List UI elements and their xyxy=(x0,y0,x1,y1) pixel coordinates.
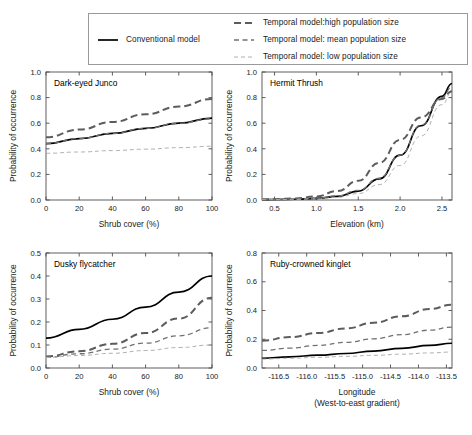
y-tick-label: 0.0 xyxy=(246,196,257,205)
x-axis-title: Shrub cover (%) xyxy=(99,219,160,229)
x-tick-label: -115.5 xyxy=(324,372,345,381)
y-tick-label: 0.2 xyxy=(246,170,257,179)
y-axis-title: Probability of occurrence xyxy=(8,90,18,183)
y-tick-label: 0.6 xyxy=(246,119,257,128)
plot-frame xyxy=(46,253,212,368)
x-tick-label: 60 xyxy=(141,372,149,381)
x-tick-label: 100 xyxy=(206,204,219,213)
x-tick-label: 20 xyxy=(75,204,83,213)
x-axis-title: Longitude xyxy=(339,387,376,397)
panel-title: Hermit Thrush xyxy=(270,78,323,88)
x-tick-label: 1.0 xyxy=(311,204,322,213)
y-tick-label: 0.2 xyxy=(30,318,41,327)
x-tick-label: 2.0 xyxy=(395,204,406,213)
y-axis-title: Probability of occurrence xyxy=(224,90,234,183)
panel-1: 0204060801000.00.20.40.60.81.0Dark-eyed … xyxy=(8,68,218,229)
x-tick-label: -116.0 xyxy=(296,372,317,381)
x-tick-label: 60 xyxy=(141,204,149,213)
y-tick-label: 1.0 xyxy=(30,68,41,77)
y-tick-label: 0.0 xyxy=(246,364,257,373)
y-tick-label: 0.8 xyxy=(246,93,257,102)
x-tick-label: -114.5 xyxy=(380,372,401,381)
panel-4: -116.5-116.0-115.5-115.0-114.5-114.0-113… xyxy=(224,249,457,408)
plot-frame xyxy=(46,72,212,200)
x-axis-subtitle: (West-to-east gradient) xyxy=(314,398,400,408)
x-tick-label: -115.0 xyxy=(352,372,373,381)
y-tick-label: 1.0 xyxy=(246,68,257,77)
y-tick-label: 0.8 xyxy=(246,249,257,258)
x-axis-title: Elevation (km) xyxy=(330,219,384,229)
x-tick-label: -114.0 xyxy=(408,372,429,381)
y-tick-label: 0.2 xyxy=(246,335,257,344)
y-tick-label: 0.8 xyxy=(30,93,41,102)
x-tick-label: -113.5 xyxy=(436,372,457,381)
y-tick-label: 0.2 xyxy=(30,170,41,179)
x-axis-title: Shrub cover (%) xyxy=(99,387,160,397)
figure-panels: 0204060801000.00.20.40.60.81.0Dark-eyed … xyxy=(0,0,472,435)
y-axis-title: Probability of occurrence xyxy=(224,264,234,357)
x-tick-label: 0.5 xyxy=(269,204,280,213)
panel-title: Dusky flycatcher xyxy=(54,259,116,269)
y-tick-label: 0.0 xyxy=(30,364,41,373)
y-tick-label: 0.1 xyxy=(30,341,41,350)
x-tick-label: 100 xyxy=(206,372,219,381)
x-tick-label: 80 xyxy=(175,372,183,381)
y-tick-label: 0.4 xyxy=(246,145,257,154)
y-tick-label: 0.3 xyxy=(30,295,41,304)
y-tick-label: 0.5 xyxy=(30,249,41,258)
x-tick-label: -116.5 xyxy=(268,372,289,381)
y-tick-label: 0.6 xyxy=(246,277,257,286)
x-tick-label: 20 xyxy=(75,372,83,381)
y-tick-label: 0.0 xyxy=(30,196,41,205)
panel-title: Dark-eyed Junco xyxy=(54,78,118,88)
x-tick-label: 40 xyxy=(108,204,116,213)
y-tick-label: 0.4 xyxy=(30,272,41,281)
y-axis-title: Probability of occurrence xyxy=(8,264,18,357)
x-tick-label: 1.5 xyxy=(353,204,364,213)
y-tick-label: 0.4 xyxy=(30,145,41,154)
x-tick-label: 2.5 xyxy=(437,204,448,213)
y-tick-label: 0.6 xyxy=(30,119,41,128)
y-tick-label: 0.4 xyxy=(246,306,257,315)
panel-2: 0.51.01.52.02.50.00.20.40.60.81.0Hermit … xyxy=(224,68,452,229)
x-tick-label: 40 xyxy=(108,372,116,381)
x-tick-label: 0 xyxy=(44,204,48,213)
panel-3: 0204060801000.00.10.20.30.40.5Dusky flyc… xyxy=(8,249,218,397)
x-tick-label: 0 xyxy=(44,372,48,381)
panel-title: Ruby-crowned kinglet xyxy=(270,259,351,269)
x-tick-label: 80 xyxy=(175,204,183,213)
